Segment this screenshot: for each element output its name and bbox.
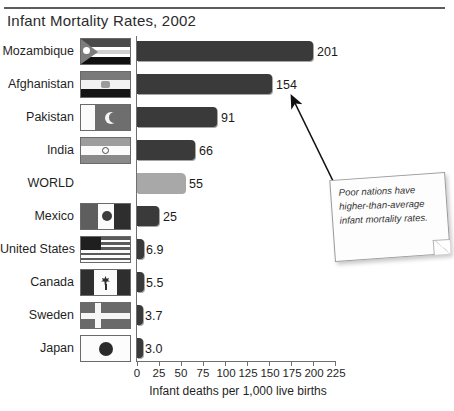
- flag-japan: [80, 335, 131, 362]
- category-label-world: WORLD: [0, 176, 74, 190]
- category-label-pakistan: Pakistan: [0, 110, 74, 124]
- bar-value-india: 66: [199, 144, 213, 158]
- bar-world: [137, 173, 185, 193]
- flag-united-states: [80, 236, 131, 263]
- x-tick-label-0: 0: [134, 367, 140, 379]
- bar-india: [137, 140, 195, 160]
- bar-value-pakistan: 91: [221, 111, 235, 125]
- x-tick-label-200: 200: [304, 367, 323, 379]
- bar-value-japan: 3.0: [145, 342, 162, 356]
- flag-afghanistan: [80, 71, 131, 98]
- x-tick-label-125: 125: [238, 367, 257, 379]
- bar-pakistan: [137, 107, 217, 127]
- x-axis-title: Infant deaths per 1,000 live births: [138, 384, 338, 398]
- category-label-sweden: Sweden: [0, 308, 74, 322]
- category-label-afghanistan: Afghanistan: [0, 77, 74, 91]
- x-tick-label-25: 25: [153, 367, 166, 379]
- bar-mozambique: [137, 41, 313, 61]
- flag-canada: [80, 269, 131, 296]
- bar-value-canada: 5.5: [146, 276, 163, 290]
- bar-value-world: 55: [189, 177, 203, 191]
- bar-sweden: [137, 305, 143, 325]
- bar-united-states: [137, 239, 144, 259]
- page-fold-icon: [433, 239, 451, 255]
- category-label-japan: Japan: [0, 341, 74, 355]
- x-tick-label-75: 75: [197, 367, 210, 379]
- x-tick-label-50: 50: [175, 367, 188, 379]
- bar-value-sweden: 3.7: [145, 309, 162, 323]
- category-label-canada: Canada: [0, 275, 74, 289]
- bar-mexico: [137, 206, 159, 226]
- infant-mortality-chart: Infant Mortality Rates, 2002 Mozambique …: [0, 0, 454, 411]
- bar-japan: [137, 338, 143, 358]
- x-tick-label-150: 150: [260, 367, 279, 379]
- bar-canada: [137, 272, 144, 292]
- category-label-mozambique: Mozambique: [0, 44, 74, 58]
- bar-afghanistan: [137, 74, 272, 94]
- x-axis-line: [136, 361, 335, 362]
- x-tick-label-175: 175: [282, 367, 301, 379]
- bar-value-mozambique: 201: [317, 45, 338, 59]
- callout-arrow: [270, 80, 360, 190]
- callout-note: Poor nations have higher-than-average in…: [329, 172, 450, 262]
- flag-pakistan: [80, 104, 131, 131]
- category-label-mexico: Mexico: [0, 209, 74, 223]
- callout-note-text: Poor nations have higher-than-average in…: [338, 182, 439, 227]
- flag-sweden: [80, 302, 131, 329]
- category-label-united-states: United States: [0, 242, 74, 256]
- bar-value-mexico: 25: [163, 210, 177, 224]
- category-label-india: India: [0, 143, 74, 157]
- bar-value-united-states: 6.9: [146, 243, 163, 257]
- flag-india: [80, 137, 131, 164]
- flag-mexico: [80, 203, 131, 230]
- x-tick-label-100: 100: [216, 367, 235, 379]
- x-tick-label-225: 225: [326, 367, 345, 379]
- flag-mozambique: [80, 38, 131, 65]
